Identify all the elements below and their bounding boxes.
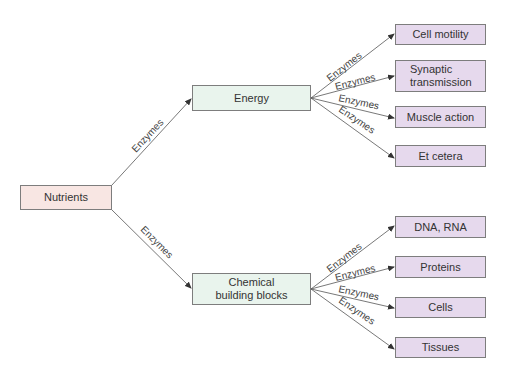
node-cell-motility: Cell motility (395, 24, 486, 45)
node-label: Et cetera (418, 150, 462, 163)
node-chemical-building-blocks: Chemical building blocks (192, 273, 311, 305)
node-label: Nutrients (44, 191, 88, 204)
node-energy: Energy (192, 85, 311, 111)
arrow-energy-etcetera (311, 98, 394, 158)
node-dna-rna: DNA, RNA (395, 216, 486, 238)
node-label: Muscle action (407, 111, 474, 124)
node-label: Proteins (420, 261, 460, 274)
node-label: Cell motility (412, 28, 468, 41)
node-muscle-action: Muscle action (395, 106, 486, 128)
node-synaptic-transmission: Synaptic transmission (395, 60, 486, 92)
arrow-nutrients-energy (112, 99, 191, 185)
node-et-cetera: Et cetera (395, 145, 486, 167)
node-label: Tissues (422, 341, 460, 354)
node-label: Chemical building blocks (211, 276, 292, 302)
node-cells: Cells (395, 297, 486, 318)
node-label: DNA, RNA (414, 221, 467, 234)
node-label: Energy (234, 92, 269, 105)
arrow-chemical-tissues (311, 289, 394, 349)
arrow-nutrients-chemical (112, 210, 191, 288)
node-label: Cells (428, 301, 452, 314)
node-nutrients: Nutrients (20, 185, 112, 210)
node-proteins: Proteins (395, 256, 486, 278)
node-tissues: Tissues (395, 337, 486, 358)
edge-label-enzymes: Enzymes (129, 117, 165, 155)
node-label: Synaptic transmission (410, 63, 479, 89)
